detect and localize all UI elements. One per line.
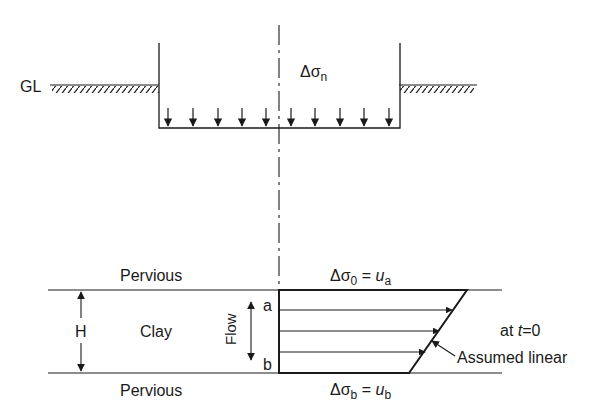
top-pervious-label: Pervious — [120, 267, 182, 284]
bottom-pervious-label: Pervious — [120, 382, 182, 399]
assumed-linear-label: Assumed linear — [457, 349, 568, 366]
bottom-stress-label: Δσb = ub — [330, 381, 391, 402]
thickness-label: H — [75, 323, 87, 340]
point-b-label: b — [263, 356, 272, 373]
ground-surface-right — [399, 85, 477, 93]
load-label: Δσn — [300, 63, 327, 84]
consolidation-diagram: GL Δσn Pervious Pervious Clay H Flow a b… — [0, 0, 610, 414]
ground-surface-left — [50, 85, 159, 93]
point-a-label: a — [263, 297, 272, 314]
pressure-arrows — [280, 310, 452, 352]
diagram-svg: GL Δσn Pervious Pervious Clay H Flow a b… — [0, 0, 610, 414]
top-stress-label: Δσ0 = ua — [330, 267, 391, 288]
flow-label: Flow — [222, 313, 239, 345]
ground-level-label: GL — [20, 78, 41, 95]
time-label: at t=0 — [500, 322, 541, 339]
clay-label: Clay — [140, 323, 172, 340]
annotation-pointer — [432, 341, 455, 356]
